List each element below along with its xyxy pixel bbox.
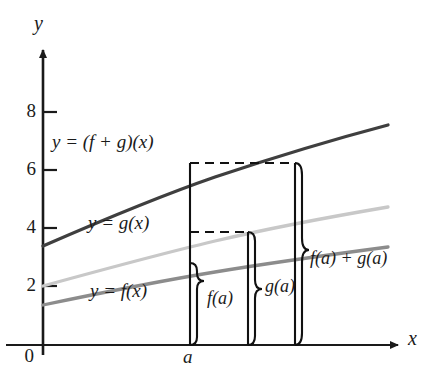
function-sum-graph-figure: y x 0 8 6 4 2 a y = (f + g)(x) y = g(x) …: [0, 0, 434, 378]
y-tick-label-2: 2: [10, 274, 36, 296]
curve-label-f-plus-g: y = (f + g)(x): [52, 131, 154, 153]
annotation-label-g-a: g(a): [265, 276, 295, 297]
brace-f-a-plus-g-a: [295, 163, 309, 345]
annotation-label-f-a-plus-g-a: f(a) + g(a): [310, 248, 387, 269]
y-tick-label-6: 6: [10, 158, 36, 180]
graph-canvas: [0, 0, 434, 378]
brace-g-a: [248, 232, 262, 345]
x-tick-label-a: a: [183, 346, 193, 368]
y-axis-label: y: [34, 12, 43, 35]
y-tick-label-8: 8: [10, 100, 36, 122]
annotation-label-f-a: f(a): [207, 288, 233, 309]
origin-label: 0: [12, 345, 34, 367]
curve-label-f: y = f(x): [90, 280, 147, 302]
y-tick-label-4: 4: [10, 216, 36, 238]
x-axis-label: x: [408, 327, 417, 350]
curve-label-g: y = g(x): [88, 212, 149, 234]
